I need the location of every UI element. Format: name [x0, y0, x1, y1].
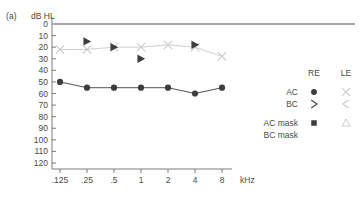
data-point [83, 37, 91, 45]
symbol-filled-circle [84, 85, 90, 91]
data-point [191, 41, 199, 49]
symbol-filled-circle [57, 79, 63, 85]
data-point [138, 85, 144, 91]
symbol-cross-x [83, 45, 91, 53]
symbol-filled-circle [165, 85, 171, 91]
data-point [137, 55, 145, 63]
axis-spine [52, 17, 232, 169]
legend-symbol-le [343, 100, 349, 108]
data-point [219, 85, 225, 91]
y-tick-label: 30 [22, 54, 48, 64]
legend: RELEACBCAC maskBC mask [256, 60, 359, 130]
x-tick-label: 1 [139, 175, 144, 185]
symbol-angle-left [343, 100, 349, 108]
legend-symbol-re [311, 120, 317, 126]
legend-row-label: AC mask [256, 118, 298, 128]
x-tick-label: 2 [166, 175, 171, 185]
data-point [111, 85, 117, 91]
symbol-cross-x [137, 43, 145, 51]
legend-symbol-le [342, 88, 350, 96]
symbol-filled-triangle-right [110, 43, 118, 51]
y-tick-label: 110 [22, 146, 48, 156]
y-tick-label: 50 [22, 77, 48, 87]
x-tick-label: 8 [220, 175, 225, 185]
symbol-cross-x [164, 41, 172, 49]
symbol-cross-x [56, 45, 64, 53]
legend-col-header-re: RE [308, 68, 320, 78]
data-point [191, 43, 199, 51]
x-tick-label: .25 [81, 175, 93, 185]
y-tick-label: 20 [22, 42, 48, 52]
y-tick-label: 100 [22, 135, 48, 145]
data-point [56, 45, 64, 53]
y-tick-label: 80 [22, 112, 48, 122]
series-line-ac-le [60, 45, 222, 57]
series-line-ac-mask-re [60, 82, 222, 94]
symbol-cross-x [342, 88, 350, 96]
y-tick-label: 40 [22, 65, 48, 75]
data-point [84, 85, 90, 91]
y-tick-label: 10 [22, 31, 48, 41]
legend-row-label: BC [256, 99, 298, 109]
x-axis-unit-label: kHz [240, 175, 255, 185]
data-point [165, 85, 171, 91]
data-point [57, 79, 63, 85]
y-tick-label: 120 [22, 158, 48, 168]
data-point [192, 90, 198, 96]
y-tick-label: 60 [22, 89, 48, 99]
data-point [137, 43, 145, 51]
symbol-cross-x [191, 43, 199, 51]
symbol-filled-triangle-right [191, 41, 199, 49]
x-tick-label: .125 [52, 175, 69, 185]
symbol-cross-x [110, 43, 118, 51]
data-point [110, 43, 118, 51]
symbol-filled-circle [111, 85, 117, 91]
symbol-filled-circle [138, 85, 144, 91]
symbol-filled-circle [311, 89, 317, 95]
data-point [83, 45, 91, 53]
legend-row-label: AC [256, 87, 298, 97]
y-tick-label: 90 [22, 123, 48, 133]
x-tick-label: .5 [110, 175, 117, 185]
y-axis-unit-label: dB HL [31, 11, 55, 21]
data-point [164, 41, 172, 49]
symbol-open-triangle-up [342, 119, 350, 126]
symbol-filled-triangle-right [83, 37, 91, 45]
legend-symbol-re [311, 100, 317, 108]
data-point [110, 43, 118, 51]
data-point [218, 52, 226, 60]
symbol-filled-circle [192, 90, 198, 96]
symbol-filled-square [311, 120, 317, 126]
y-tick-label: 70 [22, 100, 48, 110]
legend-row-label: BC mask [256, 130, 298, 140]
symbol-filled-triangle-right [137, 55, 145, 63]
symbol-filled-circle [219, 85, 225, 91]
panel-label: (a) [6, 11, 17, 21]
legend-col-header-le: LE [341, 68, 351, 78]
x-tick-label: 4 [193, 175, 198, 185]
symbol-cross-x [218, 52, 226, 60]
legend-symbol-le [342, 119, 350, 126]
legend-symbol-re [311, 89, 317, 95]
symbol-angle-right [311, 100, 317, 108]
audiogram-figure: (a) dB HL 0102030405060708090100110120.1… [0, 0, 361, 201]
